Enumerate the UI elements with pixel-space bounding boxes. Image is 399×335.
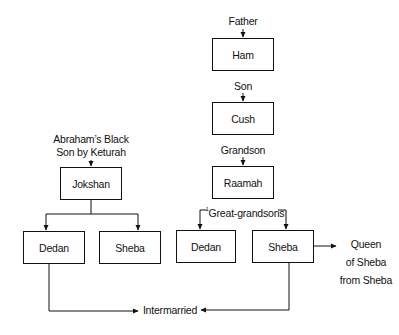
- son-label: Son: [223, 80, 263, 93]
- right-dedan-box: Dedan: [176, 230, 236, 263]
- great-grandsons-text: Great-grandsons: [209, 207, 285, 219]
- queen-line-3: from Sheba: [336, 274, 396, 287]
- great-grandsons-label: 1Great-grandsons: [206, 203, 280, 220]
- abraham-heading-line1: Abraham’s Black: [46, 133, 136, 146]
- intermarried-label: Intermarried: [140, 304, 200, 317]
- left-dedan-box: Dedan: [23, 231, 85, 264]
- queen-line-2: of Sheba: [336, 256, 396, 269]
- abraham-heading: Abraham’s Black Son by Keturah: [46, 133, 136, 159]
- left-sheba-box: Sheba: [99, 231, 161, 264]
- ham-box: Ham: [212, 38, 274, 71]
- queen-of-sheba-label: Queen of Sheba from Sheba: [336, 238, 396, 287]
- queen-line-1: Queen: [336, 238, 396, 251]
- jokshan-box: Jokshan: [60, 167, 122, 200]
- abraham-heading-line2: Son by Keturah: [46, 146, 136, 159]
- grandson-label: Grandson: [213, 144, 273, 157]
- raamah-box: Raamah: [212, 166, 274, 199]
- cush-box: Cush: [212, 102, 274, 135]
- right-sheba-box: Sheba: [252, 230, 314, 263]
- father-label: Father: [223, 15, 263, 28]
